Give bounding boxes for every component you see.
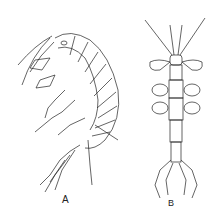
amphipod-a-drawing — [18, 33, 119, 192]
panel-label-b: B — [168, 198, 174, 208]
panel-label-a: A — [62, 194, 69, 205]
amphipod-b-drawing — [145, 18, 205, 198]
illustration — [0, 0, 220, 216]
